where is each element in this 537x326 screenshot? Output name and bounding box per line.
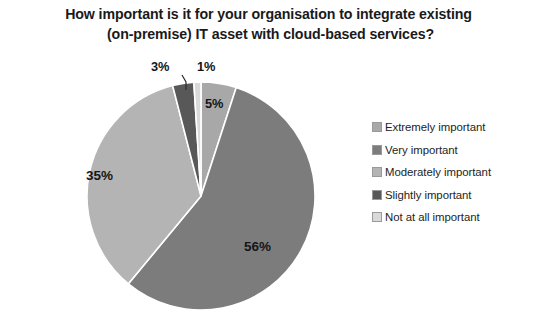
data-label-extremely-important: 5% [205, 96, 224, 111]
legend-label: Very important [385, 144, 458, 156]
legend-swatch-icon [372, 122, 382, 132]
legend-swatch-icon [372, 190, 382, 200]
legend: Extremely important Very important Moder… [372, 116, 532, 229]
legend-label: Not at all important [385, 211, 480, 223]
legend-label: Extremely important [385, 121, 485, 133]
legend-swatch-icon [372, 145, 382, 155]
legend-label: Slightly important [385, 189, 471, 201]
legend-item-slightly-important[interactable]: Slightly important [372, 184, 532, 207]
legend-item-moderately-important[interactable]: Moderately important [372, 161, 532, 184]
legend-swatch-icon [372, 167, 382, 177]
legend-item-extremely-important[interactable]: Extremely important [372, 116, 532, 139]
data-label-very-important: 56% [244, 239, 271, 254]
legend-item-very-important[interactable]: Very important [372, 139, 532, 162]
pie-chart-figure: How important is it for your organisatio… [0, 0, 537, 326]
legend-item-not-at-all-important[interactable]: Not at all important [372, 206, 532, 229]
data-label-moderately-important: 35% [86, 168, 113, 183]
pie-slices [87, 82, 315, 310]
legend-swatch-icon [372, 212, 382, 222]
legend-label: Moderately important [385, 166, 491, 178]
data-label-not-at-all-important: 1% [197, 59, 216, 74]
data-label-slightly-important: 3% [151, 59, 170, 74]
